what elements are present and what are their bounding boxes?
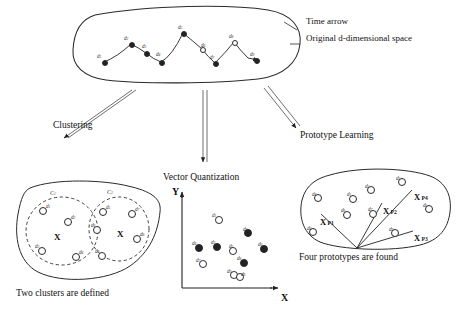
prototype-mark: X P1 (320, 217, 334, 227)
caption-four-prototypes: Four prototypes are found (299, 252, 398, 262)
branch-label-prototype-learning: Prototype Learning (300, 130, 374, 140)
cluster-1-dashed-boundary (26, 197, 98, 265)
data-point-label: d8 (307, 225, 311, 231)
branch-arrow-prototype-learning (264, 86, 300, 128)
prototype-mark: X P3 (414, 233, 428, 243)
original-space-outline (73, 6, 300, 83)
data-point-label: d9 (389, 226, 393, 232)
data-point-label: d4 (312, 191, 316, 197)
data-point-label: d2 (365, 183, 369, 189)
data-point-label: d6 (201, 42, 205, 48)
data-point-label: d5 (229, 243, 233, 249)
data-point-label: d5 (423, 202, 427, 208)
data-point-label: d5 (106, 204, 110, 210)
data-point-label: d9 (250, 51, 254, 57)
data-point-label: d1 (212, 212, 216, 218)
branch-arrow-clustering (64, 90, 136, 138)
branch-arrow-vector-quantization (203, 90, 207, 162)
prototype-mark: X P2 (383, 206, 397, 216)
data-point-label: d7 (196, 257, 200, 263)
axis-label-x: X (281, 292, 288, 303)
clustering-outer-region (17, 181, 161, 279)
data-point-label: d6 (258, 241, 262, 247)
data-point-label: d4 (156, 51, 160, 57)
prototype-spokes (321, 190, 413, 248)
annotation-time-arrow: Time arrow (306, 16, 348, 26)
cluster-name-label: C2 (107, 189, 113, 195)
data-point-label: d3 (211, 239, 215, 245)
caption-two-clusters: Two clusters are defined (16, 288, 109, 298)
data-point-label: d1 (46, 203, 50, 209)
data-point-label: d7 (368, 206, 372, 212)
data-point-label: d3 (35, 243, 39, 249)
prototype-mark: X P4 (414, 192, 428, 202)
data-point-label: d3 (396, 175, 400, 181)
annotation-original-space: Original d-dimensional space (306, 33, 412, 43)
axis-label-y: Y (172, 186, 179, 197)
data-point-label: d4 (192, 240, 196, 246)
data-point-label: d2 (243, 226, 247, 232)
data-point-label: d2 (124, 35, 128, 41)
data-point-label: d1 (347, 191, 351, 197)
data-point-label: d1 (97, 53, 101, 59)
cluster-centroid-mark: X (117, 229, 124, 239)
branch-label-vector-quantization: Vector Quantization (163, 172, 239, 182)
data-point-label: d4 (79, 249, 83, 255)
data-point-label: d5 (178, 24, 182, 30)
data-point-label: d3 (142, 43, 146, 49)
data-point-label: d9 (227, 268, 231, 274)
data-point-label: d8 (229, 33, 233, 39)
data-point-label: d7 (210, 54, 214, 60)
data-point-label: d8 (140, 231, 144, 237)
cluster-centroid-mark: X (54, 232, 61, 242)
data-point-label: d6 (91, 222, 95, 228)
cluster-name-label: C1 (50, 190, 56, 196)
data-point-label: d0 (241, 271, 245, 277)
data-point-label: d9 (95, 248, 99, 254)
data-point-label: d7 (135, 206, 139, 212)
annotation-leaders (284, 22, 300, 44)
data-point-label: d2 (71, 214, 75, 220)
data-point-label: d8 (237, 255, 241, 261)
figure-canvas: Time arrow Original d-dimensional space … (0, 0, 465, 323)
data-point-label: d6 (341, 207, 345, 213)
branch-label-clustering: Clustering (53, 120, 93, 130)
